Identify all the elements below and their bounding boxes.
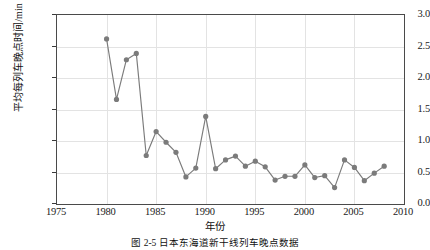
- x-tick-label: 2010: [383, 206, 423, 217]
- data-point-marker: [233, 154, 238, 159]
- data-point-marker: [292, 174, 297, 179]
- x-tick-label: 1990: [185, 206, 225, 217]
- x-tick-label: 1980: [86, 206, 126, 217]
- figure-caption: 图 2-5 日本东海道新干线列车晚点数据: [0, 238, 430, 249]
- data-point-marker: [144, 153, 149, 158]
- data-point-marker: [263, 164, 268, 169]
- data-point-marker: [163, 140, 168, 145]
- data-point-marker: [223, 157, 228, 162]
- data-point-marker: [253, 159, 258, 164]
- data-point-marker: [183, 174, 188, 179]
- data-series-line: [57, 15, 404, 204]
- data-point-marker: [282, 174, 287, 179]
- data-point-marker: [173, 150, 178, 155]
- x-tick-label: 1975: [36, 206, 76, 217]
- data-point-marker: [312, 175, 317, 180]
- data-point-marker: [302, 162, 307, 167]
- plot-area: [56, 14, 405, 205]
- data-point-marker: [213, 166, 218, 171]
- data-point-marker: [382, 164, 387, 169]
- data-point-marker: [362, 178, 367, 183]
- data-point-marker: [342, 157, 347, 162]
- data-point-marker: [114, 97, 119, 102]
- data-point-marker: [104, 36, 109, 41]
- y-axis-label: 平均每列车晚点时间/min: [13, 0, 24, 138]
- data-point-marker: [124, 57, 129, 62]
- data-point-marker: [332, 185, 337, 190]
- data-point-marker: [193, 165, 198, 170]
- data-point-marker: [134, 51, 139, 56]
- data-point-marker: [352, 165, 357, 170]
- data-point-marker: [372, 171, 377, 176]
- data-point-marker: [154, 129, 159, 134]
- data-point-marker: [322, 173, 327, 178]
- data-point-marker: [243, 164, 248, 169]
- data-point-marker: [203, 114, 208, 119]
- x-axis-label: 年份: [0, 221, 430, 232]
- data-point-marker: [273, 177, 278, 182]
- figure-container: 0.00.51.01.52.02.53.0 197519801985199019…: [0, 0, 430, 250]
- x-tick-label: 2005: [333, 206, 373, 217]
- x-tick-label: 1985: [135, 206, 175, 217]
- x-tick-label: 1995: [234, 206, 274, 217]
- x-tick-label: 2000: [284, 206, 324, 217]
